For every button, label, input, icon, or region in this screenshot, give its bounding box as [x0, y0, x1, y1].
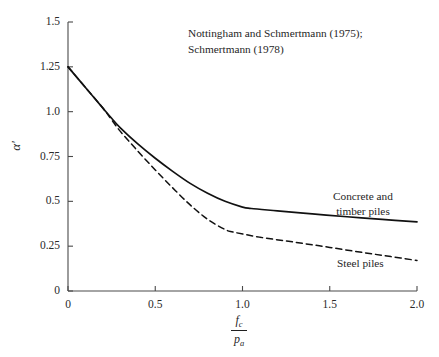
x-axis-title: fc pa: [217, 313, 261, 349]
source-annotation: Nottingham and Schmertmann (1975); Schme…: [188, 26, 363, 57]
y-axis-title: α′: [8, 141, 24, 151]
axes-group: [68, 22, 417, 291]
x-axis-tick-label: 0: [48, 299, 88, 311]
y-ticks-group: [68, 22, 73, 291]
x-axis-tick-label: 1.0: [223, 299, 263, 311]
x-axis-title-denominator: pa: [231, 331, 247, 348]
series-label-steel-piles: Steel piles: [337, 256, 384, 271]
series-label-concrete-line2: timber piles: [333, 204, 393, 219]
series-label-concrete-line1: Concrete and: [333, 189, 393, 204]
x-ticks-group: [68, 286, 417, 291]
source-annotation-line1: Nottingham and Schmertmann (1975);: [188, 26, 363, 42]
y-axis-tick-label: 0.5: [14, 195, 60, 207]
y-axis-tick-label: 0: [14, 285, 60, 297]
x-axis-title-numerator: fc: [231, 313, 247, 331]
series-line-steel-piles: [68, 67, 417, 261]
chart-figure: Nottingham and Schmertmann (1975); Schme…: [0, 0, 439, 357]
series-label-concrete-and-timber-piles: Concrete and timber piles: [333, 189, 393, 219]
x-axis-tick-label: 2.0: [397, 299, 437, 311]
y-axis-tick-label: 1.25: [14, 61, 60, 73]
x-axis-tick-label: 1.5: [310, 299, 350, 311]
data-series-group: [68, 67, 417, 261]
x-axis-title-fraction: fc pa: [231, 313, 247, 349]
source-annotation-line2: Schmertmann (1978): [188, 42, 363, 58]
y-axis-tick-label: 1.5: [14, 16, 60, 28]
y-axis-tick-label: 0.75: [14, 151, 60, 163]
y-axis-tick-label: 0.25: [14, 240, 60, 252]
x-axis-tick-label: 0.5: [135, 299, 175, 311]
y-axis-tick-label: 1.0: [14, 106, 60, 118]
